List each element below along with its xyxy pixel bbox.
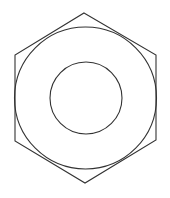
hexagon-outline	[15, 13, 156, 183]
outer-circle	[15, 27, 157, 169]
hex-nut-diagram	[0, 0, 170, 198]
inner-bore-circle	[50, 62, 122, 134]
